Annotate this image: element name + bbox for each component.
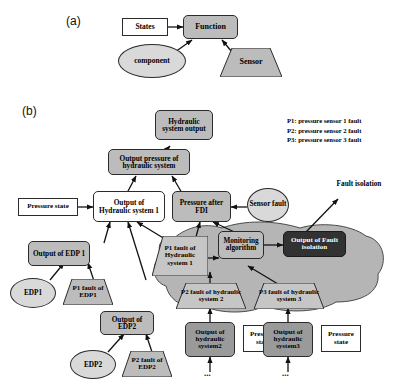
- node-output-edp2[interactable]: Output of EDP2: [100, 311, 154, 335]
- node-p2-fault-edp2[interactable]: P2 fault of EDP2: [122, 351, 172, 377]
- node-p2-fault-edp2-label: P2 fault of EDP2: [122, 357, 172, 371]
- node-output-hydraulic-2[interactable]: Output of hydraulic system2: [185, 322, 235, 357]
- node-output-pressure[interactable]: Output pressure of hydraulic system: [108, 149, 190, 175]
- panel-b-label: (b): [22, 104, 37, 118]
- node-p3-fault-hydraulic-3[interactable]: P3 fault of hydraulic system 3: [254, 283, 324, 309]
- figure-canvas: (a) (b) States Function component Sensor…: [0, 0, 401, 386]
- legend: P1: pressure sensor 1 fault P2: pressure…: [287, 116, 361, 145]
- node-p1-fault-hydraulic-1-label: P1 fault of Hydraulic system 1: [152, 245, 208, 266]
- node-output-fault-isolation[interactable]: Output of Fault isolation: [283, 231, 346, 257]
- node-output-hydraulic-1[interactable]: Output of Hydraulic system 1: [93, 191, 165, 222]
- node-pressure-after-fdi[interactable]: Pressure after FDI: [172, 191, 231, 222]
- node-sensor-label: Sensor: [235, 58, 266, 66]
- node-function[interactable]: Function: [183, 15, 238, 39]
- node-states[interactable]: States: [122, 18, 168, 36]
- node-p1-fault-edp1-label: P1 fault of EDP1: [63, 285, 113, 299]
- legend-line-2: P2: pressure sensor 2 fault: [287, 126, 361, 136]
- node-p2-fault-hydraulic-2-label: P2 fault of hydraulic system 2: [176, 289, 246, 303]
- node-p1-fault-edp1[interactable]: P1 fault of EDP1: [63, 279, 113, 305]
- legend-line-3: P3: pressure sensor 3 fault: [287, 135, 361, 145]
- ellipsis-hydraulic-3: ...: [282, 368, 289, 378]
- node-p3-fault-hydraulic-3-label: P3 fault of hydraulic system 3: [254, 289, 324, 303]
- node-output-hydraulic-3[interactable]: Output of hydraulic system3: [263, 322, 313, 357]
- node-edp2[interactable]: EDP2: [70, 350, 116, 379]
- node-output-edp1[interactable]: Output of EDP 1: [28, 241, 90, 266]
- node-pressure-state-3[interactable]: Pressure state: [321, 325, 361, 352]
- ellipsis-hydraulic-2: ...: [204, 368, 211, 378]
- node-component[interactable]: component: [118, 44, 186, 78]
- node-sensor[interactable]: Sensor: [220, 48, 282, 77]
- panel-a-label: (a): [66, 14, 81, 28]
- node-p2-fault-hydraulic-2[interactable]: P2 fault of hydraulic system 2: [176, 283, 246, 309]
- node-pressure-state-1[interactable]: Pressure state: [18, 198, 78, 216]
- legend-line-1: P1: pressure sensor 1 fault: [287, 116, 361, 126]
- node-edp1[interactable]: EDP1: [10, 278, 56, 308]
- label-fault-isolation: Fault isolation: [332, 180, 386, 188]
- node-hydraulic-system-output[interactable]: Hydraulic system output: [155, 110, 213, 140]
- node-p1-fault-hydraulic-1[interactable]: P1 fault of Hydraulic system 1: [152, 236, 208, 276]
- node-sensor-fault[interactable]: Sensor fault: [247, 188, 289, 222]
- node-monitoring-algorithm[interactable]: Monitoring algorithm: [218, 231, 264, 259]
